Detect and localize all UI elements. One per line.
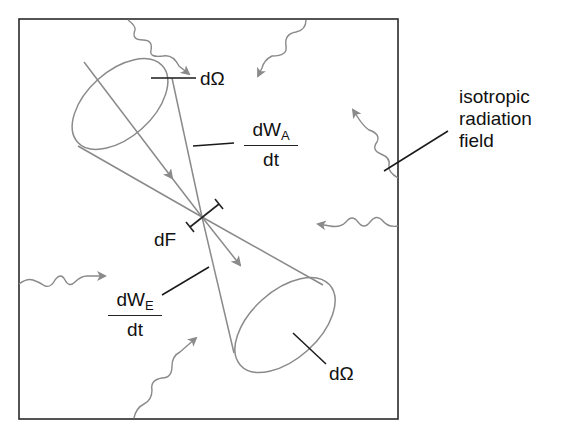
label-solid-angle-top: dΩ	[200, 69, 225, 88]
leader-lines	[151, 78, 448, 364]
wave-top-center	[258, 20, 306, 76]
label-area-element: dF	[154, 230, 176, 249]
leader-dWA	[193, 143, 234, 146]
fraction-dWA-numerator: dWA	[244, 120, 298, 146]
fraction-dWA-denominator: dt	[244, 146, 298, 169]
leader-domega-bottom	[293, 333, 326, 364]
wave-left	[19, 276, 105, 286]
wave-bottom	[134, 338, 196, 418]
wave-right-lower	[318, 217, 398, 226]
fraction-dWA-dt: dWA dt	[244, 120, 298, 169]
leader-field	[384, 131, 448, 171]
fraction-dWE-dt: dWE dt	[108, 290, 162, 339]
diagram-canvas	[0, 0, 572, 433]
wave-top-left	[128, 20, 189, 74]
label-isotropic-radiation-field: isotropic radiation field	[459, 86, 532, 152]
leader-dWE	[162, 267, 209, 295]
label-solid-angle-bottom: dΩ	[329, 364, 354, 383]
wave-right-upper	[353, 110, 398, 178]
fraction-dWE-denominator: dt	[108, 316, 162, 339]
fraction-dWE-numerator: dWE	[108, 290, 162, 316]
